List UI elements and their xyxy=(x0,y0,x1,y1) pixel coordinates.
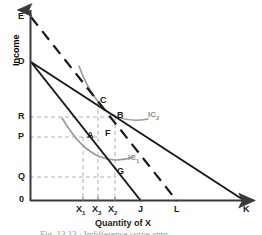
curve-label-ic2: IC2 xyxy=(148,110,159,121)
x-tick-label-J: J xyxy=(138,204,143,214)
budget-line-dk xyxy=(31,62,245,201)
origin-label: 0 xyxy=(19,194,24,204)
point-label-G: G xyxy=(117,166,124,176)
x-tick-label-x1: X1 xyxy=(76,204,85,216)
budget-line-el xyxy=(31,17,177,201)
indifference-curve-ic2 xyxy=(79,66,148,120)
x-tick-label-L: L xyxy=(174,204,180,214)
point-label-F: F xyxy=(105,128,111,138)
y-tick-label-R: R xyxy=(18,111,25,121)
curve-label-ic1: IC1 xyxy=(128,153,139,164)
x-tick-label-K: K xyxy=(243,204,250,214)
x-tick-label-x3: X3 xyxy=(92,204,101,216)
x-axis-title: Quantity of X xyxy=(95,218,151,228)
diagram-canvas xyxy=(0,0,262,235)
y-tick-label-D: D xyxy=(18,56,25,66)
point-label-C: C xyxy=(100,95,107,105)
figure-container: Income E D R P Q 0 X1 X3 X2 J L K Quanti… xyxy=(0,0,262,235)
point-label-B: B xyxy=(117,110,124,120)
y-tick-label-E: E xyxy=(18,11,24,21)
y-tick-label-P: P xyxy=(18,131,24,141)
figure-caption: Fig. 13.13 : Indifference curve appr... xyxy=(40,229,174,235)
x-tick-label-x2: X2 xyxy=(108,204,117,216)
y-tick-label-Q: Q xyxy=(18,171,25,181)
point-label-A: A xyxy=(87,130,94,140)
